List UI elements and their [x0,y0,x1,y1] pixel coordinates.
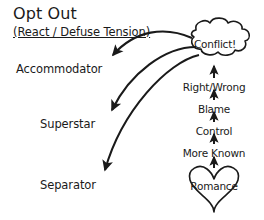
chain-label-blame: Blame [198,104,230,115]
page-subtitle: (React / Defuse Tension) [13,27,150,39]
node-label-romance: Romance [190,181,237,192]
chain-label-right-wrong: Right/Wrong [183,82,246,93]
chain-label-more-known: More Known [183,148,246,159]
outcome-label-separator: Separator [40,180,96,192]
diagram-canvas: Opt Out (React / Defuse Tension) Accommo… [0,0,264,220]
arrow-conflict-to-superstar [112,47,196,110]
page-title: Opt Out [13,6,77,22]
outcome-label-superstar: Superstar [40,119,95,131]
chain-label-control: Control [196,126,233,137]
node-label-conflict: Conflict! [194,39,236,50]
outcome-label-accommodator: Accommodator [16,64,102,76]
